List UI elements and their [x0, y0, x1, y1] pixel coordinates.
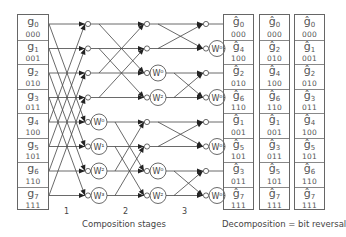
- twiddle-factor-label: W²: [93, 167, 104, 176]
- input-cell-4: g4100: [18, 113, 48, 138]
- output3-cell-2: ĝ2010: [295, 64, 324, 89]
- bit-index: 110: [260, 103, 289, 112]
- sum-node-icon: [203, 46, 208, 51]
- bit-index: 111: [224, 201, 253, 210]
- sum-node-icon: [85, 46, 90, 51]
- bit-index: 110: [295, 177, 324, 186]
- sum-node-icon: [144, 119, 149, 124]
- bit-index: 011: [18, 103, 48, 112]
- cell-divider: [295, 64, 324, 65]
- cell-divider: [224, 89, 253, 90]
- cell-divider: [260, 113, 289, 114]
- bit-index: 001: [260, 128, 289, 137]
- input-cell-1: g1001: [18, 40, 48, 65]
- cell-divider: [18, 40, 48, 41]
- twiddle-factor-label: W²: [152, 192, 163, 201]
- output2-cell-3: ĝ6110: [260, 89, 289, 114]
- bit-index: 010: [260, 54, 289, 63]
- output1-cell-0: ĝ0000: [224, 15, 253, 40]
- output1-cell-6: ĝ3011: [224, 162, 253, 187]
- sum-node-icon: [85, 168, 90, 173]
- bit-index: 000: [224, 30, 253, 39]
- input-cell-0: g0000: [18, 15, 48, 40]
- sum-node-icon: [203, 21, 208, 26]
- output1-cell-3: ĝ6110: [224, 89, 253, 114]
- input-cell-6: g6110: [18, 162, 48, 187]
- bit-index: 110: [18, 177, 48, 186]
- cell-divider: [18, 64, 48, 65]
- sum-node-icon: [144, 193, 149, 198]
- twiddle-factor-label: W³: [93, 192, 104, 201]
- input-cell-3: g3011: [18, 89, 48, 114]
- twiddle-factor-label: W¹: [93, 143, 104, 152]
- cell-divider: [295, 89, 324, 90]
- bit-index: 101: [18, 152, 48, 161]
- sum-node-icon: [144, 46, 149, 51]
- output3-cell-6: ĝ6110: [295, 162, 324, 187]
- bit-index: 100: [295, 128, 324, 137]
- bit-index: 101: [224, 152, 253, 161]
- cell-divider: [224, 187, 253, 188]
- sum-node-icon: [144, 95, 149, 100]
- bit-index: 111: [260, 201, 289, 210]
- output1-cell-2: ĝ2010: [224, 64, 253, 89]
- cell-divider: [224, 138, 253, 139]
- input-column: g0000g1001g2010g3011g4100g5101g6110g7111: [17, 14, 49, 210]
- cell-divider: [260, 138, 289, 139]
- output2-cell-1: ĝ2010: [260, 40, 289, 65]
- cell-divider: [18, 187, 48, 188]
- twiddle-factor-label: W²: [152, 94, 163, 103]
- twiddle-factor-label: W⁰: [152, 69, 163, 78]
- stage-label-1: 1: [64, 207, 69, 216]
- twiddle-factor-label: W⁰: [211, 192, 222, 201]
- cell-divider: [18, 162, 48, 163]
- cell-divider: [295, 138, 324, 139]
- output-column-2: ĝ0000ĝ2010ĝ4100ĝ6110ĝ1001ĝ3011ĝ5101ĝ7111: [259, 14, 290, 210]
- output1-cell-5: ĝ5101: [224, 138, 253, 163]
- bit-index: 110: [224, 103, 253, 112]
- input-cell-5: g5101: [18, 138, 48, 163]
- input-cell-2: g2010: [18, 64, 48, 89]
- twiddle-factor-label: W⁰: [152, 167, 163, 176]
- sum-node-icon: [203, 95, 208, 100]
- bit-index: 000: [260, 30, 289, 39]
- cell-divider: [260, 64, 289, 65]
- sum-node-icon: [144, 70, 149, 75]
- twiddle-factor-label: W⁰: [211, 143, 222, 152]
- output2-cell-2: ĝ4100: [260, 64, 289, 89]
- sum-node-icon: [203, 168, 208, 173]
- output3-cell-1: ĝ1001: [295, 40, 324, 65]
- output-column-1: ĝ0000ĝ4100ĝ2010ĝ6110ĝ1001ĝ5101ĝ3011ĝ7111: [223, 14, 254, 210]
- bit-index: 010: [224, 79, 253, 88]
- bit-index: 010: [295, 79, 324, 88]
- cell-divider: [295, 113, 324, 114]
- bit-index: 001: [224, 128, 253, 137]
- bit-index: 011: [295, 103, 324, 112]
- bit-index: 000: [18, 30, 48, 39]
- output2-cell-4: ĝ1001: [260, 113, 289, 138]
- decomposition-caption: Decomposition = bit reversal: [222, 219, 346, 229]
- cell-divider: [18, 138, 48, 139]
- output1-cell-7: ĝ7111: [224, 187, 253, 212]
- output3-cell-5: ĝ5101: [295, 138, 324, 163]
- cell-divider: [295, 187, 324, 188]
- sum-node-icon: [144, 168, 149, 173]
- cell-divider: [260, 187, 289, 188]
- output3-cell-3: ĝ3011: [295, 89, 324, 114]
- stage-label-3: 3: [182, 207, 187, 216]
- bit-index: 010: [18, 79, 48, 88]
- cell-divider: [224, 113, 253, 114]
- output3-cell-4: ĝ4100: [295, 113, 324, 138]
- bit-index: 000: [295, 30, 324, 39]
- sum-node-icon: [85, 193, 90, 198]
- output2-cell-7: ĝ7111: [260, 187, 289, 212]
- bit-index: 001: [295, 54, 324, 63]
- sum-node-icon: [144, 21, 149, 26]
- cell-divider: [18, 89, 48, 90]
- sum-node-icon: [85, 70, 90, 75]
- stage-label-2: 2: [123, 207, 128, 216]
- sum-node-icon: [203, 119, 208, 124]
- cell-divider: [295, 162, 324, 163]
- bit-index: 100: [260, 79, 289, 88]
